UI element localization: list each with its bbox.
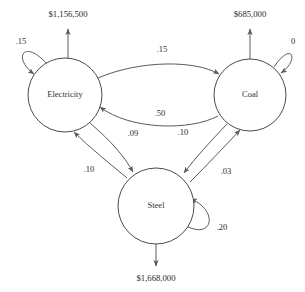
- steel-to-electricity-rate: .10: [84, 164, 95, 174]
- electricity-to-steel-rate: .09: [128, 128, 139, 138]
- node-steel-label: Steel: [148, 200, 166, 210]
- electricity-self-loop-rate: .15: [16, 36, 27, 46]
- electricity-to-coal-rate: .15: [157, 44, 168, 54]
- steel-output-value: $1,668,000: [136, 273, 176, 283]
- steel-to-coal-rate: .03: [221, 166, 232, 176]
- steel-to-electricity-edge: [74, 132, 127, 178]
- electricity-to-coal-edge: [98, 64, 219, 78]
- coal-to-electricity-rate: .50: [155, 108, 166, 118]
- coal-output-value: $685,000: [234, 9, 267, 19]
- flow-diagram: Electricity Coal Steel $1,156,500 $685,0…: [0, 0, 305, 292]
- node-coal-label: Coal: [242, 89, 259, 99]
- node-electricity-label: Electricity: [47, 89, 83, 99]
- edge-rate-labels: .15 .50 .09 .10 .10 .03: [84, 44, 232, 176]
- coal-to-steel-rate: .10: [178, 127, 189, 137]
- coal-self-loop-path: [274, 54, 292, 73]
- flow-diagram-canvas: Electricity Coal Steel $1,156,500 $685,0…: [0, 0, 305, 292]
- electricity-output-value: $1,156,500: [48, 9, 88, 19]
- steel-self-loop-rate: .20: [217, 222, 228, 232]
- coal-self-loop-rate: 0: [291, 36, 295, 46]
- graph-nodes: Electricity Coal Steel: [28, 58, 286, 244]
